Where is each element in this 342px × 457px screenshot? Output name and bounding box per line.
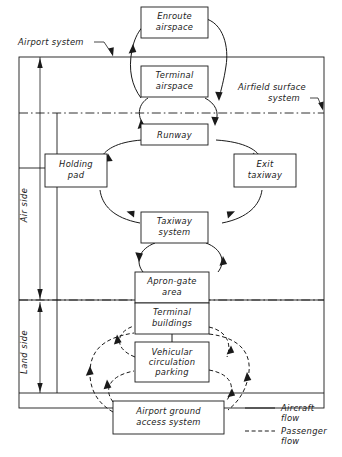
- box-terminal-airspace: Terminal airspace: [141, 66, 208, 97]
- side-label-air-side: Air side: [19, 188, 29, 224]
- box-label-line: area: [162, 287, 182, 297]
- box-label-line: Airport ground: [135, 406, 201, 416]
- annotation-label: Airport system: [17, 37, 84, 47]
- box-label-line: Runway: [157, 130, 193, 140]
- box-runway: Runway: [141, 124, 208, 145]
- box-label-line: Vehicular: [151, 347, 192, 357]
- box-label-line: Taxiway: [157, 216, 193, 226]
- annotation-airport-system: Airport system: [17, 37, 114, 57]
- legend-label-line: Passenger: [281, 426, 327, 436]
- side-label-land-side: Land side: [19, 330, 29, 374]
- annotation-label: system: [268, 93, 300, 103]
- legend-label-line: flow: [281, 436, 299, 446]
- legend-item-passenger-flow: Passenger flow: [245, 426, 327, 446]
- box-label-line: buildings: [152, 318, 193, 328]
- legend-item-aircraft-flow: Aircraft flow: [245, 403, 315, 423]
- box-label-line: Apron-gate: [146, 276, 196, 286]
- box-apron-gate-area: Apron-gate area: [135, 272, 209, 303]
- box-airport-ground-access-system: Airport ground access system: [113, 401, 224, 434]
- box-terminal-buildings: Terminal buildings: [135, 303, 209, 334]
- box-taxiway-system: Taxiway system: [141, 212, 208, 243]
- box-label-line: Exit: [257, 159, 274, 169]
- flow-taxiway-aprongate: [135, 243, 227, 272]
- box-holding-pad: Holding pad: [45, 154, 107, 187]
- annotation-airfield-surface-system: Airfield surface system: [237, 82, 324, 111]
- box-enroute-airspace: Enroute airspace: [141, 7, 208, 38]
- land-side-dimension: [37, 302, 42, 393]
- box-label-line: circulation: [149, 357, 196, 367]
- box-label-line: pad: [67, 170, 85, 180]
- box-label-line: Enroute: [157, 11, 192, 21]
- box-label-line: access system: [136, 417, 200, 427]
- box-label-line: Terminal: [153, 307, 191, 317]
- box-label-line: airspace: [156, 81, 193, 91]
- box-label-line: system: [159, 227, 191, 237]
- legend-label-line: flow: [281, 413, 299, 423]
- legend-label-line: Aircraft: [280, 403, 315, 413]
- box-label-line: taxiway: [248, 170, 283, 180]
- legend: Aircraft flow Passenger flow: [245, 403, 327, 446]
- airport-system-diagram: Air side Land side: [0, 0, 342, 457]
- box-label-line: Terminal: [156, 70, 194, 80]
- annotation-label: Airfield surface: [237, 82, 306, 92]
- box-label-line: airspace: [156, 22, 193, 32]
- box-vehicular-circulation-parking: Vehicular circulation parking: [135, 342, 209, 382]
- box-label-line: parking: [154, 367, 188, 377]
- box-exit-taxiway: Exit taxiway: [234, 154, 296, 187]
- diagram-page: Air side Land side: [0, 0, 342, 457]
- box-label-line: Holding: [59, 159, 93, 169]
